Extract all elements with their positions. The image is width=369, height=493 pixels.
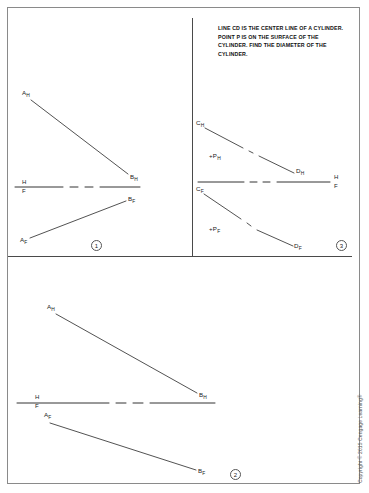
label-panel3-CF: CF [196,186,204,193]
label-panel3-PF: +PF [209,226,220,233]
panel1-hf-label-f: F [22,188,26,194]
panel1-hf-label-h: H [22,179,26,185]
worksheet-page: LINE CD IS THE CENTER LINE OF A CYLINDER… [0,0,369,493]
label-panel2-BH: BH [199,392,207,399]
panel1-number-badge: 1 [91,240,102,251]
page-border [7,7,360,484]
panel2-number-badge: 2 [230,469,241,480]
label-panel2-AH: AH [47,304,55,311]
panel2-hf-label-h: H [35,394,39,400]
label-panel1-AH: AH [22,90,30,97]
label-panel2-AF: AF [44,412,52,419]
panel3-hf-label-h: H [334,174,338,180]
label-panel1-BF: BF [128,196,136,203]
label-panel3-CH: CH [196,120,204,127]
problem-statement: LINE CD IS THE CENTER LINE OF A CYLINDER… [218,24,346,58]
label-panel3-DH: DH [296,168,304,175]
panel-divider-horizontal [8,256,352,257]
copyright-notice: Copyright © 2015 Cengage Learning® [357,394,363,483]
label-panel2-BF: BF [198,468,206,475]
panel3-number-badge: 3 [336,240,347,251]
panel-divider-vertical [192,18,193,256]
label-panel3-PH: +PH [209,153,221,160]
label-panel3-DF: DF [294,243,302,250]
label-panel1-AF: AF [20,237,28,244]
panel3-hf-label-f: F [334,183,338,189]
panel2-hf-label-f: F [35,403,39,409]
label-panel1-BH: BH [130,174,138,181]
